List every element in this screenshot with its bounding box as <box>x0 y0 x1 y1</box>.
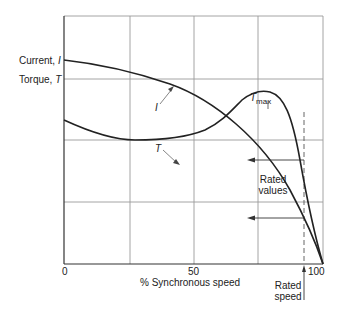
x-tick-100: 100 <box>308 266 325 277</box>
rated-torque-arrow-icon <box>247 158 255 163</box>
y-label-current: Current, I <box>19 55 61 66</box>
rated-current-arrow-icon <box>247 216 255 221</box>
rated-speed-arrow-icon <box>302 265 306 272</box>
x-tick-0: 0 <box>62 266 68 277</box>
tmax-label: Tmax <box>250 92 271 104</box>
rated-speed-label: Ratedspeed <box>274 280 302 302</box>
curve-label-torque: T <box>155 143 161 154</box>
curve-label-current: I <box>155 102 158 113</box>
chart-plot <box>0 0 339 312</box>
grid-lines <box>64 16 323 264</box>
y-label-torque: Torque, T <box>19 74 61 85</box>
current-curve <box>64 60 323 264</box>
rated-values-label: Ratedvalues <box>256 174 290 196</box>
x-axis-label: % Synchronous speed <box>140 277 240 288</box>
x-tick-50: 50 <box>188 266 199 277</box>
